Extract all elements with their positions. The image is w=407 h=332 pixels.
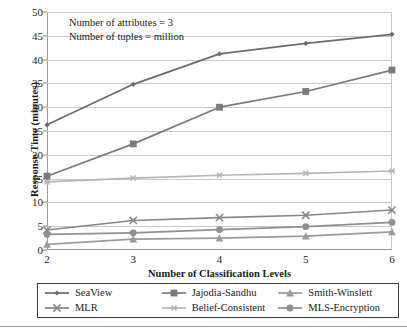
- y-tick-label: 10: [32, 196, 43, 208]
- data-point-square: [44, 173, 51, 180]
- data-point-diamond: [303, 41, 308, 46]
- data-point-asterisk: [43, 179, 50, 184]
- data-point-square: [130, 140, 137, 147]
- data-point-asterisk: [170, 306, 177, 311]
- data-point-diamond: [131, 82, 136, 87]
- series-belief-consistent: [43, 168, 395, 184]
- data-point-diamond: [389, 32, 394, 37]
- data-point-circle: [389, 219, 396, 226]
- y-tick-label: 50: [32, 6, 43, 18]
- legend-item-mls-encryption[interactable]: MLS-Encryption: [277, 302, 394, 314]
- legend-item-seaview[interactable]: SeaView: [44, 287, 161, 299]
- y-tick-label: 40: [32, 54, 43, 66]
- x-axis-title: Number of Classification Levels: [47, 268, 392, 279]
- y-tick-label: 15: [32, 173, 43, 185]
- legend-swatch-circle: [277, 302, 303, 314]
- data-point-square: [216, 104, 223, 111]
- x-tick-label: 4: [217, 253, 223, 265]
- x-tick-label: 6: [389, 253, 395, 265]
- series-layer: [47, 12, 392, 250]
- data-point-asterisk: [130, 176, 137, 181]
- x-tick-label: 2: [44, 253, 50, 265]
- legend-item-belief-consistent[interactable]: Belief-Consistent: [161, 302, 278, 314]
- data-point-diamond: [217, 51, 222, 56]
- legend-swatch-square: [161, 287, 187, 299]
- legend-swatch-asterisk: [161, 302, 187, 314]
- data-point-asterisk: [216, 173, 223, 178]
- chart-legend: SeaViewJajodia-SandhuSmith-WinslettMLRBe…: [37, 283, 399, 318]
- y-tick-label: 45: [32, 30, 43, 42]
- y-tick-label: 20: [32, 149, 43, 161]
- data-point-asterisk: [388, 168, 395, 173]
- legend-label: Jajodia-Sandhu: [192, 288, 257, 299]
- legend-label: SeaView: [75, 288, 112, 299]
- legend-label: Belief-Consistent: [192, 303, 266, 314]
- legend-swatch-triangle: [277, 287, 303, 299]
- series-jajodia-sandhu: [44, 67, 396, 180]
- data-point-square: [170, 289, 177, 296]
- data-point-square: [389, 67, 396, 74]
- data-point-diamond: [54, 290, 59, 295]
- legend-swatch-x: [44, 302, 70, 314]
- legend-label: MLR: [75, 303, 98, 314]
- data-point-diamond: [44, 122, 49, 127]
- data-point-circle: [302, 223, 309, 230]
- y-tick-label: 35: [32, 77, 43, 89]
- data-point-circle: [44, 231, 51, 238]
- x-tick-label: 5: [303, 253, 309, 265]
- plot-area: 05101520253035404550 23456 Number of att…: [47, 12, 392, 250]
- legend-swatch-diamond: [44, 287, 70, 299]
- legend-label: MLS-Encryption: [308, 303, 380, 314]
- legend-item-mlr[interactable]: MLR: [44, 302, 161, 314]
- legend-label: Smith-Winslett: [308, 288, 372, 299]
- legend-item-jajodia-sandhu[interactable]: Jajodia-Sandhu: [161, 287, 278, 299]
- legend-item-smith-winslett[interactable]: Smith-Winslett: [277, 287, 394, 299]
- data-point-circle: [287, 305, 294, 312]
- series-line: [47, 34, 392, 124]
- y-tick-label: 25: [32, 125, 43, 137]
- y-tick-label: 30: [32, 101, 43, 113]
- series-line: [47, 70, 392, 176]
- data-point-asterisk: [302, 171, 309, 176]
- data-point-circle: [216, 226, 223, 233]
- data-point-circle: [130, 229, 137, 236]
- series-line: [47, 171, 392, 182]
- bottom-divider: [0, 326, 407, 327]
- x-tick-label: 3: [131, 253, 137, 265]
- data-point-square: [302, 88, 309, 95]
- series-seaview: [44, 32, 394, 128]
- chart-figure: Response Time (minutes) 0510152025303540…: [0, 0, 407, 332]
